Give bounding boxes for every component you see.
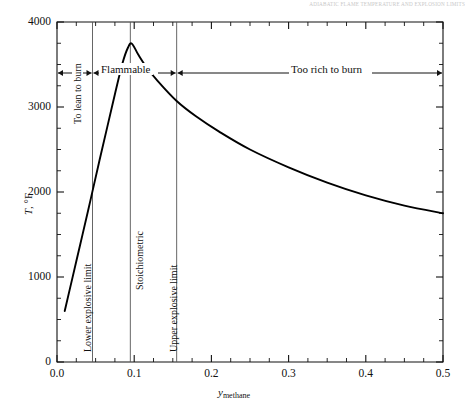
x-tick-label: 0.0 [37, 367, 77, 379]
region-label-text: To lean to burn [72, 63, 83, 124]
region-label-text: Too rich to burn [291, 63, 362, 75]
y-axis-unit: , °F [22, 193, 34, 209]
flame-temperature-curve [65, 43, 443, 311]
limit-label-lower-explosive: Lower explosive limit [82, 264, 93, 352]
x-axis-subscript: methane [223, 391, 250, 400]
y-axis-title: T, °F [22, 193, 34, 215]
region-label-text: Flammable [101, 63, 151, 75]
y-tick-label: 1000 [0, 270, 51, 282]
chart-canvas [0, 0, 470, 407]
limit-label-upper-explosive: Upper explosive limit [168, 265, 179, 352]
y-tick-label: 4000 [0, 15, 51, 27]
y-tick-label: 0 [0, 355, 51, 367]
region-label-too-lean: To lean to burn [72, 61, 83, 126]
x-tick-label: 0.4 [346, 367, 386, 379]
x-tick-label: 0.2 [191, 367, 231, 379]
y-axis-variable: T [22, 209, 34, 215]
limit-label-text: Lower explosive limit [82, 264, 93, 352]
x-axis-title: ymethane [218, 386, 250, 400]
figure-page: ADIABATIC FLAME TEMPERATURE AND EXPLOSIO… [0, 0, 470, 407]
limit-label-stoichiometric: Stoichiometric [134, 231, 145, 290]
limit-label-text: Stoichiometric [134, 231, 145, 290]
limit-label-text: Upper explosive limit [168, 265, 179, 352]
region-label-flammable: Flammable [99, 63, 153, 75]
y-tick-label: 3000 [0, 100, 51, 112]
region-label-too-rich: Too rich to burn [289, 63, 364, 75]
x-tick-label: 0.5 [423, 367, 463, 379]
x-tick-label: 0.3 [269, 367, 309, 379]
x-tick-label: 0.1 [114, 367, 154, 379]
